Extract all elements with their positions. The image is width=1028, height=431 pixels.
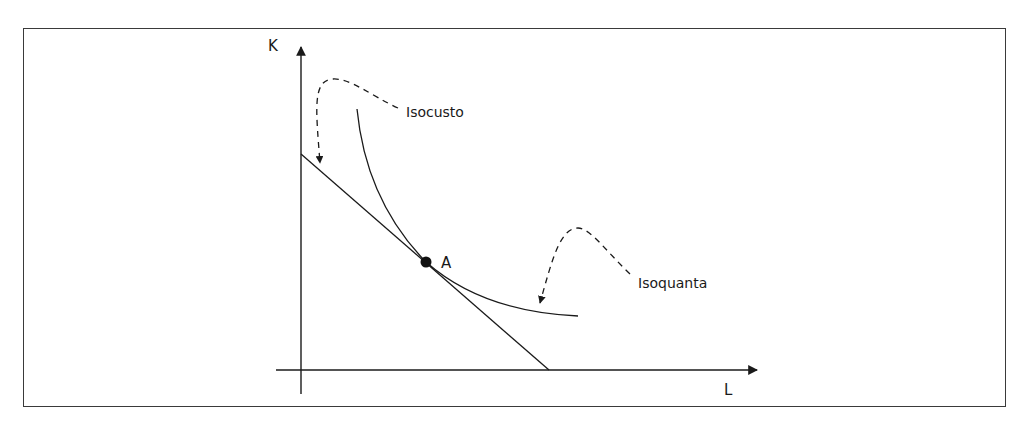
isoquant-curve xyxy=(357,109,578,316)
isoquant-label: Isoquanta xyxy=(638,275,707,291)
y-axis-label: K xyxy=(268,37,279,55)
isocost-label: Isocusto xyxy=(406,104,464,120)
x-axis-label: L xyxy=(724,381,733,399)
tangency-point xyxy=(421,257,432,268)
isoquant-isocost-diagram: K L A Isocusto Isoquanta xyxy=(0,0,1028,431)
isoquant-pointer-arrow xyxy=(540,228,630,303)
point-label: A xyxy=(441,254,452,272)
isocost-pointer-arrow xyxy=(317,79,398,163)
